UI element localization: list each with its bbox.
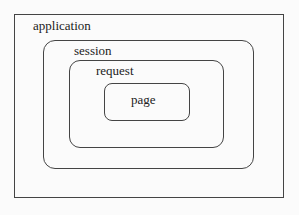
session-label: session xyxy=(74,43,112,59)
request-label: request xyxy=(96,63,134,79)
page-label: page xyxy=(131,92,156,108)
application-label: application xyxy=(33,18,91,34)
